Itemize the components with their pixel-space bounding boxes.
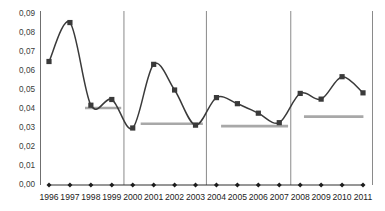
baseline-point-marker [130, 183, 135, 188]
baseline-point-marker [151, 183, 156, 188]
data-point-marker [67, 20, 72, 25]
period-average-lines [85, 108, 363, 126]
baseline-point-marker [319, 183, 324, 188]
data-point-marker [235, 101, 240, 106]
y-tick-label: 0,03 [19, 123, 35, 132]
x-tick-label: 1997 [60, 192, 79, 202]
y-axis-tick-labels: 0,090,080,070,060,050,040,030,020,010,00 [19, 9, 35, 189]
data-point-marker [298, 91, 303, 96]
baseline-point-marker [256, 183, 261, 188]
chart-canvas: 0,090,080,070,060,050,040,030,020,010,00… [0, 0, 385, 211]
data-point-marker [277, 120, 282, 125]
y-tick-label: 0,08 [19, 28, 35, 37]
x-tick-label: 1999 [102, 192, 121, 202]
x-tick-label: 2000 [123, 192, 142, 202]
baseline-point-marker [277, 183, 282, 188]
data-point-marker [172, 87, 177, 92]
baseline-point-marker [47, 183, 52, 188]
line-chart: 0,090,080,070,060,050,040,030,020,010,00… [0, 0, 385, 211]
data-point-marker [88, 103, 93, 108]
y-tick-label: 0,05 [19, 85, 35, 94]
x-tick-label: 2002 [165, 192, 184, 202]
x-tick-label: 2001 [144, 192, 163, 202]
y-tick-label: 0,09 [19, 9, 35, 18]
period-dividers [124, 11, 291, 185]
x-tick-label: 2006 [249, 192, 268, 202]
data-point-marker [193, 123, 198, 128]
x-tick-label: 2005 [228, 192, 247, 202]
baseline-point-marker [193, 183, 198, 188]
x-tick-label: 1996 [39, 192, 58, 202]
baseline-point-marker [172, 183, 177, 188]
data-point-marker [360, 90, 365, 95]
data-point-marker [46, 59, 51, 64]
y-tick-label: 0,06 [19, 66, 35, 75]
y-tick-label: 0,00 [19, 180, 35, 189]
baseline-point-marker [109, 183, 114, 188]
x-tick-label: 2011 [354, 192, 373, 202]
x-axis-tick-labels: 1996199719981999200020012002200320042005… [39, 192, 372, 202]
x-tick-label: 2010 [333, 192, 352, 202]
baseline-point-marker [361, 183, 366, 188]
y-tick-label: 0,07 [19, 47, 35, 56]
data-point-marker [109, 97, 114, 102]
x-tick-label: 2009 [312, 192, 331, 202]
x-tick-label: 2003 [186, 192, 205, 202]
data-point-marker [214, 95, 219, 100]
x-tick-label: 2008 [291, 192, 310, 202]
data-point-marker [256, 111, 261, 116]
data-point-marker [151, 62, 156, 67]
y-tick-label: 0,02 [19, 142, 35, 151]
baseline-point-marker [214, 183, 219, 188]
x-tick-label: 2004 [207, 192, 226, 202]
x-tick-label: 1998 [81, 192, 100, 202]
baseline-point-marker [340, 183, 345, 188]
baseline-point-marker [67, 183, 72, 188]
data-point-marker [319, 97, 324, 102]
data-point-marker [130, 125, 135, 130]
baseline-point-marker [298, 183, 303, 188]
y-tick-label: 0,04 [19, 104, 35, 113]
x-tick-label: 2007 [270, 192, 289, 202]
baseline-point-marker [88, 183, 93, 188]
baseline-point-marker [235, 183, 240, 188]
y-tick-label: 0,01 [19, 161, 35, 170]
data-point-marker [339, 74, 344, 79]
